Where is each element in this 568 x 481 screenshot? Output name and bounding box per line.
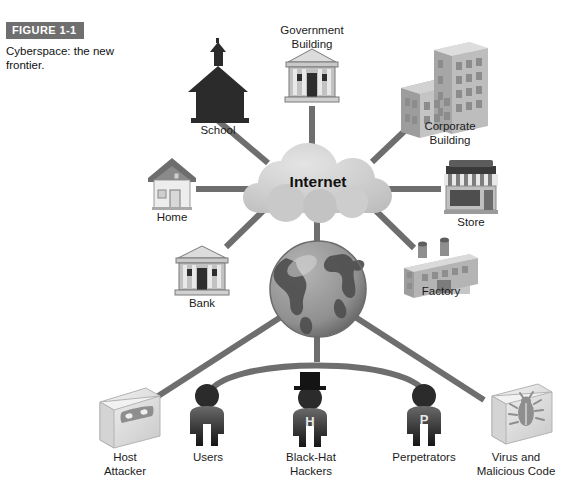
cyberspace-diagram: Internet [0, 0, 568, 481]
person-icon [190, 384, 224, 446]
person-tophat-icon: H [293, 372, 327, 447]
label-corporate-building: Corporate Building [408, 120, 492, 147]
person-icon-perpetrator: P [407, 384, 441, 446]
hacker-badge: H [305, 414, 314, 429]
school-building-icon [188, 38, 249, 123]
label-home: Home [132, 211, 212, 225]
label-bank: Bank [162, 297, 242, 311]
label-virus: Virus and Malicious Code [466, 451, 566, 478]
house-icon [148, 158, 196, 210]
bug-box-icon [492, 384, 552, 444]
line-cloud-bank [226, 208, 266, 247]
cloud-label: Internet [290, 173, 347, 190]
government-building-icon [285, 49, 339, 102]
label-host-attacker: Host Attacker [86, 451, 164, 478]
label-school: School [178, 124, 258, 138]
label-black-hat-hackers: Black-Hat Hackers [266, 451, 356, 478]
label-government-building: Government Building [272, 24, 352, 51]
line-globe-host-attacker [152, 315, 284, 400]
bank-building-icon [175, 246, 229, 295]
label-perpetrators: Perpetrators [372, 451, 476, 465]
masked-box-icon [100, 388, 160, 448]
label-users: Users [172, 451, 244, 465]
store-icon [444, 160, 498, 214]
globe-icon [270, 241, 366, 337]
label-store: Store [431, 216, 511, 230]
perpetrator-badge: P [420, 412, 429, 427]
label-factory: Factory [401, 285, 481, 299]
